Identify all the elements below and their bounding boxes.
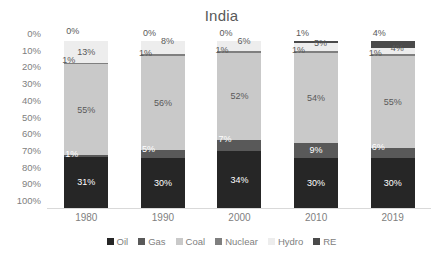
y-axis-tick: 70% <box>22 146 41 156</box>
bar-group: 30%9%54%1%5%1% <box>278 41 355 208</box>
bar-callout-label-re: 0% <box>66 26 79 36</box>
bar-segment-label: 54% <box>307 93 325 103</box>
bar-segment-label: 9% <box>310 145 323 155</box>
chart-container: India 0%10%20%30%40%50%60%70%80%90%100% … <box>0 0 443 263</box>
y-axis-tick: 0% <box>27 29 41 39</box>
y-axis-tick: 100% <box>17 196 41 206</box>
stacked-bar[interactable]: 30%9%54%1%5%1% <box>294 41 338 208</box>
bar-segment-gas[interactable]: 9% <box>294 143 338 158</box>
legend-item-oil[interactable]: Oil <box>107 236 129 247</box>
legend-item-coal[interactable]: Coal <box>176 236 206 247</box>
bar-segment-coal[interactable]: 55% <box>64 64 108 155</box>
bar-segment-label: 55% <box>77 105 95 115</box>
bar-segment-label: 52% <box>230 91 248 101</box>
bar-callout-label-nuclear: 1% <box>369 48 382 58</box>
bar-callout-label-gas: 7% <box>218 134 231 144</box>
y-axis-tick: 90% <box>22 179 41 189</box>
legend-item-re[interactable]: RE <box>313 236 336 247</box>
stacked-bar[interactable]: 31%55%13%1%1%0% <box>64 41 108 208</box>
bar-group: 34%52%7%1%6%0% <box>201 41 278 208</box>
bar-segment-coal[interactable]: 52% <box>217 53 261 140</box>
legend-label: Hydro <box>278 236 303 247</box>
bar-segment-label: 30% <box>384 178 402 188</box>
bar-callout-label-nuclear: 1% <box>292 45 305 55</box>
y-axis-tick: 40% <box>22 96 41 106</box>
y-axis-tick: 60% <box>22 129 41 139</box>
bar-callout-label-re: 0% <box>219 28 232 38</box>
bar-callout-label-gas: 5% <box>142 144 155 154</box>
bar-segment-oil[interactable]: 30% <box>371 158 415 208</box>
legend-swatch-icon <box>107 238 114 245</box>
bar-callout-label-gas: 6% <box>372 142 385 152</box>
bar-segment-label: 30% <box>154 178 172 188</box>
bar-segment-label: 34% <box>230 175 248 185</box>
bar-group: 31%55%13%1%1%0% <box>48 41 125 208</box>
x-axis-category-label: 1990 <box>125 211 202 227</box>
bar-callout-label-hydro: 6% <box>237 36 250 46</box>
plot-area: 31%55%13%1%1%0%30%56%5%1%8%0%34%52%7%1%6… <box>48 41 431 208</box>
x-axis-category-label: 1980 <box>48 211 125 227</box>
bar-segment-label: 30% <box>307 178 325 188</box>
bar-segment-coal[interactable]: 56% <box>141 56 185 150</box>
legend-swatch-icon <box>215 238 222 245</box>
bar-callout-label-re: 0% <box>143 28 156 38</box>
stacked-bar[interactable]: 30%55%6%1%4%4% <box>371 41 415 208</box>
legend-item-gas[interactable]: Gas <box>138 236 165 247</box>
y-axis-tick: 10% <box>22 46 41 56</box>
bar-callout-label-nuclear: 1% <box>139 48 152 58</box>
x-axis-category-label: 2010 <box>278 211 355 227</box>
bar-callout-label-nuclear: 1% <box>62 55 75 65</box>
bar-callout-label-re: 4% <box>373 28 386 38</box>
bar-segment-label: 56% <box>154 98 172 108</box>
x-axis: 19801990200020102019 <box>48 211 431 227</box>
bar-segment-oil[interactable]: 31% <box>64 157 108 208</box>
x-axis-category-label: 2000 <box>201 211 278 227</box>
legend-swatch-icon <box>313 238 320 245</box>
bar-segment-label: 55% <box>384 97 402 107</box>
bar-segment-coal[interactable]: 55% <box>371 56 415 148</box>
bar-segment-coal[interactable]: 54% <box>294 53 338 143</box>
bar-group: 30%55%6%1%4%4% <box>354 41 431 208</box>
legend-label: Oil <box>117 236 129 247</box>
chart-legend: OilGasCoalNuclearHydroRE <box>0 236 443 247</box>
y-axis-tick: 80% <box>22 163 41 173</box>
legend-swatch-icon <box>268 238 275 245</box>
chart-title: India <box>0 7 443 25</box>
y-axis-tick: 30% <box>22 79 41 89</box>
y-axis: 0%10%20%30%40%50%60%70%80%90%100% <box>0 34 44 208</box>
stacked-bar[interactable]: 34%52%7%1%6%0% <box>217 41 261 208</box>
bar-segment-label: 13% <box>77 47 95 57</box>
legend-swatch-icon <box>138 238 145 245</box>
bar-callout-label-hydro: 4% <box>391 43 404 53</box>
bar-callout-label-hydro: 8% <box>161 36 174 46</box>
bar-callout-label-hydro: 5% <box>314 38 327 48</box>
y-axis-tick: 20% <box>22 62 41 72</box>
legend-label: RE <box>323 236 336 247</box>
stacked-bar[interactable]: 30%56%5%1%8%0% <box>141 41 185 208</box>
x-axis-line <box>47 208 431 209</box>
bar-segment-oil[interactable]: 34% <box>217 151 261 208</box>
legend-label: Coal <box>186 236 206 247</box>
bar-callout-label-nuclear: 1% <box>215 45 228 55</box>
bar-segment-label: 31% <box>77 177 95 187</box>
legend-label: Gas <box>148 236 165 247</box>
bar-segment-oil[interactable]: 30% <box>141 158 185 208</box>
legend-item-hydro[interactable]: Hydro <box>268 236 303 247</box>
x-axis-category-label: 2019 <box>354 211 431 227</box>
legend-label: Nuclear <box>225 236 258 247</box>
bar-callout-label-re: 1% <box>296 28 309 38</box>
bar-callout-label-gas: 1% <box>65 149 78 159</box>
bar-group: 30%56%5%1%8%0% <box>125 41 202 208</box>
legend-swatch-icon <box>176 238 183 245</box>
legend-item-nuclear[interactable]: Nuclear <box>215 236 258 247</box>
y-axis-tick: 50% <box>22 113 41 123</box>
bar-segment-oil[interactable]: 30% <box>294 158 338 208</box>
